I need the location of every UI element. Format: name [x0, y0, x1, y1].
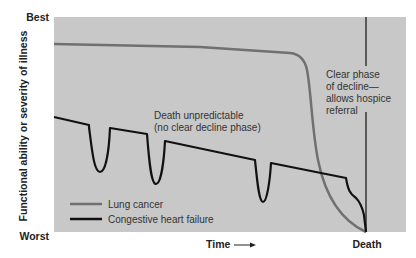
chf-annotation-line1: Death unpredictable	[154, 110, 244, 121]
legend-chf-label: Congestive heart failure	[108, 214, 214, 225]
time-arrow-icon	[234, 243, 256, 248]
y-axis-best-label: Best	[26, 11, 49, 23]
y-axis-worst-label: Worst	[19, 230, 49, 242]
lung-annotation-line2: of decline—	[326, 81, 379, 92]
x-axis-death-label: Death	[352, 238, 381, 250]
trajectory-chart: Best Worst Functional ability or severit…	[0, 0, 416, 258]
y-axis-label: Functional ability or severity of illnes…	[17, 30, 29, 221]
lung-annotation-line4: referral	[326, 105, 358, 116]
chf-annotation-line2: (no clear decline phase)	[154, 122, 261, 133]
x-axis-time-label: Time	[206, 238, 230, 250]
lung-annotation-line1: Clear phase	[326, 69, 380, 80]
lung-annotation-line3: allows hospice	[326, 93, 391, 104]
legend-lung-label: Lung cancer	[108, 199, 164, 210]
